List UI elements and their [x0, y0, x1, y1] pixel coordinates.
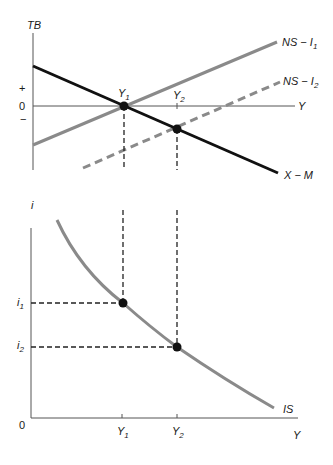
y1-label-top: Y1	[118, 88, 130, 99]
top-y-axis-label: Y	[298, 101, 305, 112]
origin-label: 0	[19, 420, 25, 431]
bottom-y-axis-label: Y	[293, 430, 300, 441]
x-m-line	[33, 66, 278, 173]
diagram-canvas	[0, 0, 333, 465]
is-curve-label: IS	[283, 404, 293, 415]
ns-i1-line	[33, 42, 277, 145]
i-axis-label: i	[31, 200, 33, 211]
minus-label: −	[20, 114, 26, 125]
equilibrium-dot-i2	[173, 343, 182, 352]
equilibrium-dot-y1-top	[120, 102, 129, 111]
plus-label: +	[19, 83, 25, 94]
i1-label: i1	[17, 297, 24, 308]
ns-i1-label: NS − I1	[282, 37, 317, 48]
is-curve	[57, 220, 274, 408]
tb-axis-label: TB	[27, 20, 41, 31]
y2-label-top: Y2	[173, 90, 185, 101]
equilibrium-dot-y2-top	[173, 125, 182, 134]
zero-label-top: 0	[19, 101, 25, 112]
i2-label: i2	[17, 340, 24, 351]
ns-i2-label: NS − I2	[283, 76, 318, 87]
y1-label-bottom: Y1	[117, 426, 129, 437]
x-m-label: X − M	[284, 170, 313, 181]
y2-label-bottom: Y2	[172, 426, 184, 437]
equilibrium-dot-i1	[119, 299, 128, 308]
